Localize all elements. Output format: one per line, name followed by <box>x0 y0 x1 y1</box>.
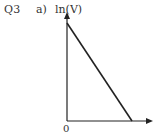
x-axis-arrow-icon <box>146 118 153 124</box>
chart-plot <box>0 0 153 133</box>
y-axis-arrow-icon <box>64 12 70 19</box>
data-line <box>67 23 132 121</box>
